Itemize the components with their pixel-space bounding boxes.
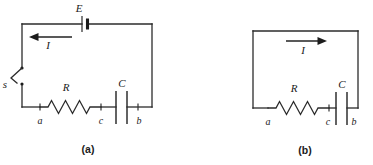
current-label-b: I bbox=[300, 44, 306, 56]
current-arrow-head-b bbox=[318, 37, 328, 45]
node-label-c-a: c bbox=[99, 115, 104, 126]
capacitor-label-b: C bbox=[338, 78, 346, 90]
node-label-a-b: a bbox=[266, 116, 271, 127]
panel-caption-b: (b) bbox=[298, 144, 311, 156]
circuit-diagram-svg: E I s R bbox=[0, 0, 373, 165]
resistor-icon-a bbox=[40, 101, 101, 114]
resistor-icon-b bbox=[268, 102, 329, 115]
current-arrow-head-a bbox=[29, 33, 39, 41]
node-label-b-b: b bbox=[352, 116, 357, 127]
node-label-a-a: a bbox=[38, 115, 43, 126]
panel-b: I R C a c b (b) bbox=[253, 31, 358, 156]
capacitor-label-a: C bbox=[118, 77, 126, 89]
panel-caption-a: (a) bbox=[82, 143, 95, 155]
switch-lower-contact-icon bbox=[20, 82, 23, 85]
current-label-a: I bbox=[45, 39, 51, 51]
resistor-label-b: R bbox=[290, 82, 298, 94]
panel-a: E I s R bbox=[3, 2, 152, 155]
node-label-c-b: c bbox=[326, 116, 331, 127]
switch-label-a: s bbox=[3, 78, 7, 90]
emf-label-a: E bbox=[75, 2, 83, 14]
switch-lever-icon[interactable] bbox=[11, 68, 22, 83]
resistor-label-a: R bbox=[62, 81, 70, 93]
node-label-b-a: b bbox=[137, 115, 142, 126]
circuit-figure-root: E I s R bbox=[0, 0, 373, 165]
